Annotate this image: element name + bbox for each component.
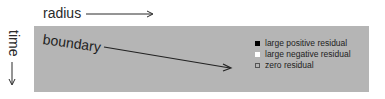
legend-item-zero: zero residual [255,60,351,71]
legend-item-positive: large positive residual [255,38,351,49]
gray-square-icon [255,63,260,68]
down-arrow-icon [9,62,15,85]
time-axis-label: time [7,30,21,56]
legend-label: large negative residual [265,49,351,60]
right-arrow-icon [86,11,153,17]
legend: large positive residual large negative r… [255,38,351,71]
legend-item-negative: large negative residual [255,49,351,60]
residual-panel: boundary large positive residual large n… [34,26,369,92]
black-square-icon [255,41,260,46]
legend-label: large positive residual [265,38,347,49]
legend-label: zero residual [265,60,314,71]
white-square-icon [255,52,260,57]
diagonal-arrow-icon [104,47,231,71]
